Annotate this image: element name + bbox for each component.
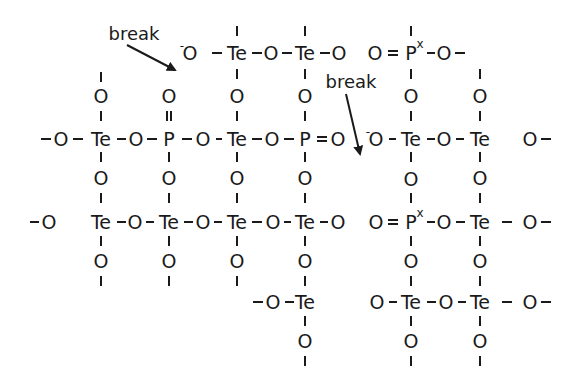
oxygen-atom: O (129, 129, 144, 149)
oxygen-atom: O (473, 86, 488, 106)
bond (410, 111, 412, 121)
oxygen-atom: O (230, 168, 245, 188)
tellurium-atom: Te (227, 212, 247, 232)
oxygen-atom: O (473, 168, 488, 188)
negative-charge-label: - (180, 40, 184, 52)
te-p-oxide-network-diagram: break break O-TeOTeOOPxOOOOOOOOTeOPOTeOP… (0, 0, 582, 381)
bond (216, 138, 222, 140)
oxygen-atom: O (523, 292, 538, 312)
oxygen-atom: O (368, 43, 383, 63)
bond (427, 52, 435, 54)
bond (320, 52, 330, 54)
oxygen-atom: O (94, 86, 109, 106)
tellurium-atom: Te (159, 212, 179, 232)
bond (73, 138, 83, 140)
bond (100, 152, 102, 162)
bond (304, 193, 306, 203)
oxygen-atom: O (369, 212, 384, 232)
bond (236, 276, 238, 286)
oxygen-atom: O (370, 292, 385, 312)
bond (30, 221, 39, 223)
oxygen-atom: O (266, 212, 281, 232)
bond (236, 69, 238, 79)
bond (284, 138, 294, 140)
bond (236, 152, 238, 162)
negative-charge-label: - (366, 126, 370, 138)
bond (304, 316, 306, 326)
bond (410, 276, 412, 286)
oxygen-atom: O (42, 212, 57, 232)
bond (479, 276, 481, 286)
bond (147, 138, 157, 140)
superscript-x-label: x (416, 207, 423, 219)
bond (304, 26, 306, 36)
oxygen-atom: O (331, 212, 346, 232)
oxygen-atom: O (266, 292, 281, 312)
bond (236, 26, 238, 36)
bond (282, 52, 292, 54)
bond (304, 276, 306, 286)
bond (389, 138, 396, 140)
oxygen-atom: O (196, 212, 211, 232)
tellurium-atom: Te (295, 292, 315, 312)
oxygen-atom: O (332, 43, 347, 63)
phosphorus-atom: P (405, 212, 416, 232)
bond (410, 152, 412, 162)
bond (236, 236, 238, 246)
bond (168, 276, 170, 286)
bond (284, 221, 291, 223)
double-bond (317, 136, 327, 142)
bond (410, 69, 412, 79)
bond (214, 221, 222, 223)
bond (479, 152, 481, 162)
bond (456, 138, 464, 140)
phosphorus-atom: P (299, 129, 310, 149)
oxygen-atom: O (439, 292, 454, 312)
bond (479, 236, 481, 246)
bond (479, 356, 481, 366)
tellurium-atom: Te (470, 292, 490, 312)
tellurium-atom: Te (470, 129, 490, 149)
oxygen-atom: O (94, 168, 109, 188)
bond (479, 316, 481, 326)
oxygen-atom: O (230, 86, 245, 106)
bond (541, 301, 551, 303)
phosphorus-atom: P (405, 43, 416, 63)
bond (285, 301, 294, 303)
bond (541, 138, 551, 140)
bond (427, 301, 436, 303)
bond (304, 69, 306, 79)
bond (168, 193, 170, 203)
tellurium-atom: Te (295, 43, 315, 63)
oxygen-atom: O (331, 129, 346, 149)
bond (252, 52, 262, 54)
bond (182, 138, 192, 140)
oxygen-atom: O (437, 43, 452, 63)
phosphorus-atom: P (163, 129, 174, 149)
oxygen-atom: O (404, 86, 419, 106)
oxygen-atom: O (162, 168, 177, 188)
bond (168, 152, 170, 162)
tellurium-atom: Te (401, 292, 421, 312)
bond (410, 316, 412, 326)
bond (117, 138, 126, 140)
oxygen-atom: O (369, 129, 384, 149)
tellurium-atom: Te (91, 212, 111, 232)
oxygen-atom: O (404, 331, 419, 351)
bond (304, 356, 306, 366)
oxygen-atom: O (298, 331, 313, 351)
bond (117, 221, 126, 223)
bond (479, 69, 481, 79)
oxygen-atom: O (523, 129, 538, 149)
bond (410, 236, 412, 246)
double-bond (388, 50, 398, 56)
oxygen-atom: O (298, 86, 313, 106)
bond (236, 111, 238, 121)
break-arrow-right-icon (346, 94, 360, 154)
bond (427, 221, 435, 223)
break-arrow-left-icon (127, 45, 175, 70)
oxygen-atom: O (196, 129, 211, 149)
tellurium-atom: Te (91, 129, 111, 149)
bond (146, 221, 154, 223)
bond (456, 221, 465, 223)
